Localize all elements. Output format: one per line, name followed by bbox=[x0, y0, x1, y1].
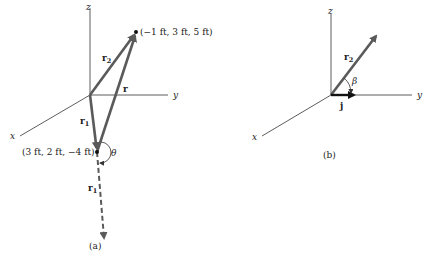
theta-label: θ bbox=[111, 148, 117, 158]
z-axis-label-a: z bbox=[85, 2, 91, 12]
x-axis-label-a: x bbox=[10, 131, 15, 141]
caption-a: (a) bbox=[89, 241, 101, 251]
label-j-b: j bbox=[339, 101, 343, 111]
z-axis-label-b: z bbox=[327, 6, 333, 16]
beta-label: β bbox=[351, 76, 357, 86]
beta-arc bbox=[344, 78, 351, 93]
x-axis-label-b: x bbox=[252, 132, 257, 142]
point-r1-dot bbox=[95, 150, 99, 154]
label-r2-b: r2 bbox=[344, 52, 353, 64]
vector-diagram: z y x (−1 ft, 3 ft, 5 ft) (3 ft, 2 ft, −… bbox=[0, 0, 430, 257]
label-r2-a: r2 bbox=[102, 53, 111, 65]
point-r2-label: (−1 ft, 3 ft, 5 ft) bbox=[140, 27, 213, 37]
label-r1-extended-a: r1 bbox=[88, 183, 97, 195]
y-axis-label-a: y bbox=[172, 90, 179, 100]
vector-r1-a bbox=[90, 95, 97, 148]
point-r1-label: (3 ft, 2 ft, −4 ft) bbox=[22, 147, 95, 157]
vector-r1-extended-a bbox=[97, 152, 104, 238]
caption-b: (b) bbox=[323, 150, 336, 160]
x-axis-b bbox=[262, 95, 331, 136]
label-r-a: r bbox=[123, 84, 128, 94]
y-axis-label-b: y bbox=[416, 90, 423, 100]
figure-b: z y x r2 j β (b) bbox=[252, 6, 423, 160]
point-r2-dot bbox=[134, 30, 138, 34]
label-r1-a: r1 bbox=[80, 116, 89, 128]
figure-a: z y x (−1 ft, 3 ft, 5 ft) (3 ft, 2 ft, −… bbox=[10, 2, 213, 251]
vector-r2-b bbox=[331, 36, 376, 95]
theta-arc bbox=[100, 142, 111, 163]
